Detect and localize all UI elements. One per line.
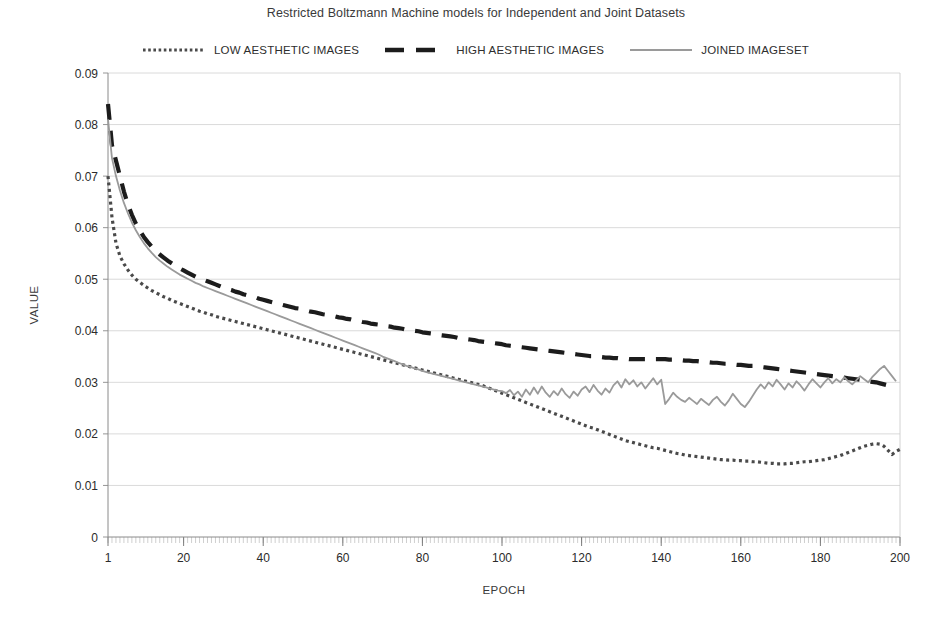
gridlines — [108, 73, 900, 485]
data-series-group — [108, 104, 900, 464]
y-tick-label: 0.07 — [75, 170, 99, 184]
x-tick-label: 60 — [336, 551, 350, 565]
y-axis-ticks — [103, 73, 108, 537]
x-tick-label: 160 — [731, 551, 751, 565]
y-tick-label: 0.01 — [75, 479, 99, 493]
x-tick-label: 100 — [492, 551, 512, 565]
x-axis-major-ticks — [108, 537, 900, 546]
x-tick-label: 120 — [572, 551, 592, 565]
x-tick-label: 1 — [105, 551, 112, 565]
plot-area: 00.010.020.030.040.050.060.070.080.09 12… — [0, 0, 952, 635]
x-tick-label: 80 — [416, 551, 430, 565]
y-tick-label: 0.03 — [75, 376, 99, 390]
y-tick-label: 0.06 — [75, 221, 99, 235]
y-tick-label: 0.09 — [75, 67, 99, 81]
x-tick-label: 40 — [257, 551, 271, 565]
x-axis-tick-labels: 120406080100120140160180200 — [105, 551, 911, 565]
y-tick-label: 0.02 — [75, 427, 99, 441]
x-tick-label: 180 — [810, 551, 830, 565]
x-axis-minor-ticks — [108, 537, 900, 543]
series-line-joined-imageset — [108, 119, 896, 407]
x-tick-label: 20 — [177, 551, 191, 565]
axis-lines — [108, 73, 900, 537]
y-tick-label: 0.04 — [75, 324, 99, 338]
y-axis-tick-labels: 00.010.020.030.040.050.060.070.080.09 — [75, 67, 99, 545]
x-tick-label: 200 — [890, 551, 910, 565]
chart-container: Restricted Boltzmann Machine models for … — [0, 0, 952, 635]
series-line-low-aesthetic-images — [108, 176, 900, 464]
y-tick-label: 0 — [91, 531, 98, 545]
y-tick-label: 0.05 — [75, 273, 99, 287]
x-tick-label: 140 — [651, 551, 671, 565]
x-axis-title: EPOCH — [483, 584, 526, 596]
y-axis-title: VALUE — [28, 286, 40, 325]
y-tick-label: 0.08 — [75, 118, 99, 132]
series-line-high-aesthetic-images — [108, 104, 896, 388]
